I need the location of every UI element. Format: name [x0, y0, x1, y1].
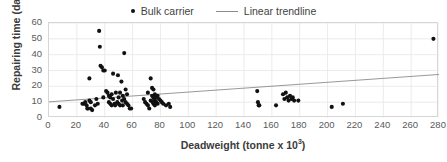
y-axis-tick-label: 30	[20, 65, 42, 75]
x-axis-tick-label: 120	[202, 120, 228, 130]
x-axis-tick-label: 200	[314, 120, 340, 130]
y-axis-title: Repairing time (day)	[10, 0, 22, 100]
x-axis-tick-label: 240	[369, 120, 395, 130]
x-axis-title: Deadweight (tonne x 103)	[48, 138, 438, 151]
x-axis-tick-label: 140	[230, 120, 256, 130]
line-marker-icon	[216, 11, 238, 12]
scatter-chart: Bulk carrier Linear trendline Repairing …	[0, 0, 447, 162]
plot-canvas	[49, 23, 439, 118]
y-axis-tick-label: 10	[20, 96, 42, 106]
y-axis-tick-label: 40	[20, 49, 42, 59]
x-axis-tick-label: 20	[63, 120, 89, 130]
x-axis-tick-label: 220	[341, 120, 367, 130]
legend-entry-bulk-carrier: Bulk carrier	[131, 6, 194, 17]
x-axis-tick-label: 40	[91, 120, 117, 130]
chart-legend: Bulk carrier Linear trendline	[0, 2, 447, 20]
dot-marker-icon	[131, 9, 135, 13]
x-axis-title-tail: )	[302, 139, 306, 151]
x-axis-title-main: Deadweight (tonne x 10	[181, 139, 298, 151]
x-axis-tick-label: 100	[174, 120, 200, 130]
x-axis-tick-label: 60	[119, 120, 145, 130]
legend-label-bulk-carrier: Bulk carrier	[141, 6, 194, 17]
x-axis-tick-label: 0	[35, 120, 61, 130]
y-axis-tick-label: 50	[20, 33, 42, 43]
x-axis-tick-label: 180	[286, 120, 312, 130]
y-axis-tick-label: 0	[20, 112, 42, 122]
legend-label-linear-trendline: Linear trendline	[244, 6, 316, 17]
x-axis-tick-label: 280	[425, 120, 447, 130]
x-axis-tick-label: 260	[397, 120, 423, 130]
plot-area	[48, 22, 438, 117]
legend-entry-linear-trendline: Linear trendline	[216, 6, 316, 17]
y-axis-tick-label: 20	[20, 81, 42, 91]
x-axis-tick-label: 80	[146, 120, 172, 130]
x-axis-tick-label: 160	[258, 120, 284, 130]
